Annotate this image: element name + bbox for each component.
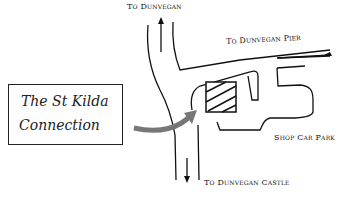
sign-line-2: Connection (19, 117, 100, 133)
label-to-dunvegan-castle: To Dunvegan Castle (204, 178, 290, 187)
label-shop-car-park: Shop Car Park (274, 133, 335, 142)
label-to-dunvegan: To Dunvegan (127, 2, 182, 11)
pointer-arrow (134, 114, 192, 130)
road-right-edge (173, 22, 330, 70)
shop-building (206, 82, 236, 112)
st-kilda-sign: The St Kilda Connection (8, 84, 123, 145)
road-left-edge (148, 25, 177, 180)
sign-line-1: The St Kilda (21, 93, 108, 109)
